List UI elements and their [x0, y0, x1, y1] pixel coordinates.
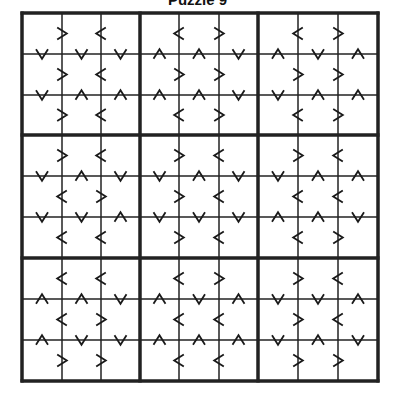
cell-r2-c7[interactable]	[298, 95, 338, 135]
cell-r6-c6[interactable]	[258, 258, 298, 299]
cell-layer	[22, 13, 378, 381]
cell-r3-c2[interactable]	[101, 135, 140, 176]
cell-r6-c4[interactable]	[179, 258, 219, 299]
cell-r7-c1[interactable]	[62, 299, 101, 340]
cell-r8-c0[interactable]	[22, 340, 62, 381]
cell-r6-c2[interactable]	[101, 258, 140, 299]
cell-r4-c1[interactable]	[62, 176, 101, 217]
cell-r3-c3[interactable]	[140, 135, 179, 176]
cell-r7-c8[interactable]	[338, 299, 378, 340]
cell-r0-c7[interactable]	[298, 13, 338, 54]
cell-r4-c8[interactable]	[338, 176, 378, 217]
cell-r8-c5[interactable]	[219, 340, 258, 381]
cell-r5-c2[interactable]	[101, 217, 140, 258]
cell-r5-c7[interactable]	[298, 217, 338, 258]
cell-r0-c0[interactable]	[22, 13, 62, 54]
cell-r3-c5[interactable]	[219, 135, 258, 176]
cell-r3-c6[interactable]	[258, 135, 298, 176]
cell-r1-c6[interactable]	[258, 54, 298, 95]
sudoku-board[interactable]	[0, 0, 395, 400]
cell-r2-c2[interactable]	[101, 95, 140, 135]
cell-r3-c0[interactable]	[22, 135, 62, 176]
cell-r2-c4[interactable]	[179, 95, 219, 135]
cell-r0-c2[interactable]	[101, 13, 140, 54]
